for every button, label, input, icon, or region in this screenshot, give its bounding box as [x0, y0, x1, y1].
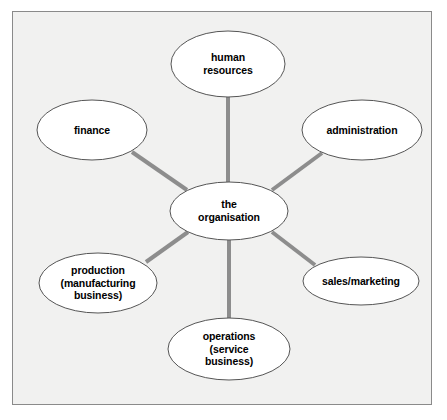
node-ellipse-administration[interactable]: [302, 100, 422, 160]
node-ellipse-human-resources[interactable]: [171, 31, 285, 97]
node-ellipse-operations[interactable]: [168, 318, 290, 380]
node-ellipse-the-organisation[interactable]: [170, 182, 288, 240]
organisation-concept-diagram: the organisationhuman resourcesfinancead…: [0, 0, 447, 420]
connector-sales-marketing: [272, 232, 315, 265]
node-layer: [37, 31, 422, 380]
node-ellipse-sales-marketing[interactable]: [303, 257, 419, 305]
diagram-canvas: [0, 0, 447, 420]
connector-finance: [132, 152, 187, 190]
connector-production: [146, 232, 188, 262]
connector-administration: [272, 153, 322, 190]
node-ellipse-finance[interactable]: [37, 100, 147, 160]
node-ellipse-production[interactable]: [39, 253, 157, 313]
